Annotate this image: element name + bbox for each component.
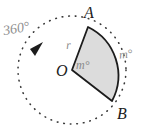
radius-label: r — [66, 39, 71, 51]
arc-measure-label: m° — [118, 47, 133, 60]
point-label-a: A — [84, 5, 94, 21]
rotation-arrowhead — [30, 42, 43, 56]
point-label-o: O — [56, 63, 68, 79]
geometry-figure: A B O r m° m° 360° — [0, 0, 153, 137]
central-angle-label: m° — [76, 59, 89, 71]
point-label-b: B — [117, 106, 127, 122]
